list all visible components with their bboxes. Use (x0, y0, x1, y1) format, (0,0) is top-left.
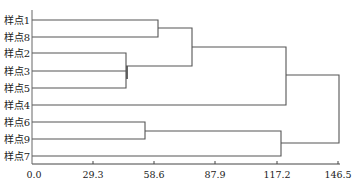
leaf-label: 样点7 (4, 150, 30, 162)
x-tick-label: 29.3 (82, 169, 103, 180)
leaf-label: 样点5 (4, 82, 30, 94)
x-tick-label: 58.6 (143, 169, 164, 180)
x-tick-label: 0.0 (26, 169, 41, 180)
leaf-labels: 样点1 样点8 样点2 样点3 样点5 样点4 样点6 样点9 样点7 (4, 14, 30, 162)
leaf-label: 样点8 (4, 31, 30, 43)
leaf-label: 样点6 (4, 116, 30, 128)
link-4 (32, 47, 286, 105)
leaf-label: 样点2 (4, 47, 30, 59)
leaf-label: 样点1 (4, 14, 30, 26)
leaf-label: 样点9 (4, 133, 30, 145)
link-1-8 (32, 20, 158, 37)
leaf-label: 样点3 (4, 65, 30, 77)
x-tick-label: 146.5 (324, 169, 351, 180)
link-18-235 (126, 28, 192, 66)
link-6-9 (32, 122, 145, 139)
x-tick-label: 87.9 (204, 169, 225, 180)
link-69-7 (32, 131, 281, 156)
x-axis: 0.0 29.3 58.6 87.9 117.2 146.5 (26, 10, 351, 180)
dendrogram-chart: 样点1 样点8 样点2 样点3 样点5 样点4 样点6 样点9 样点7 (0, 0, 356, 190)
link-root (281, 75, 339, 143)
x-tick-label: 117.2 (263, 169, 290, 180)
leaf-label: 样点4 (4, 99, 30, 111)
dendrogram-links (32, 20, 339, 156)
